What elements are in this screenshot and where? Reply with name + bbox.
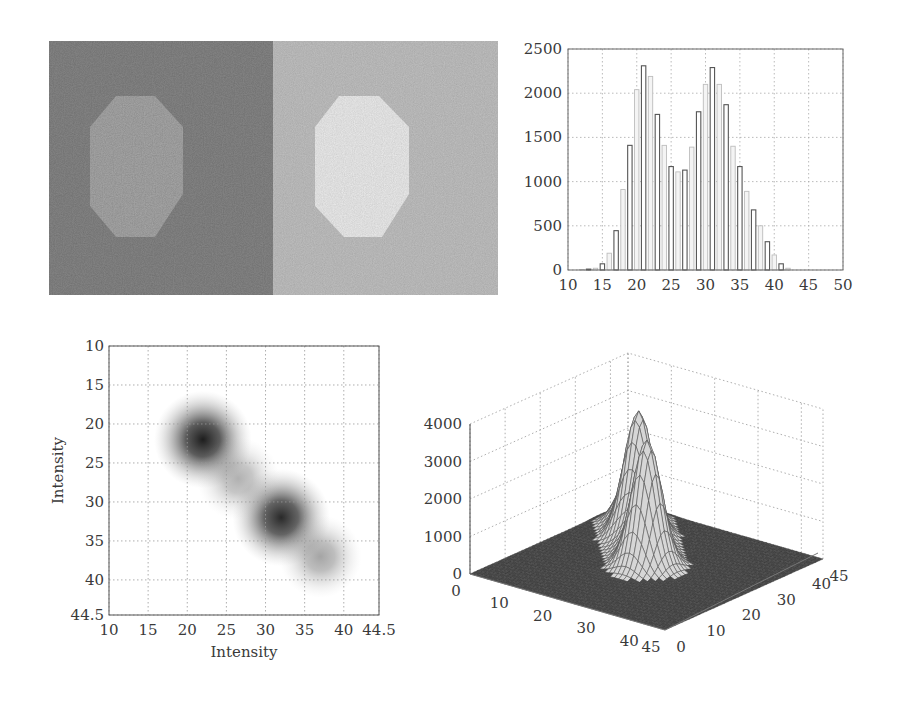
histogram-bar (655, 114, 659, 270)
histogram-bar (641, 66, 645, 270)
x-tick-label: 40 (334, 621, 353, 639)
y-tick-label: 20 (742, 606, 761, 624)
z-tick-label: 4000 (424, 415, 462, 433)
cluster (279, 515, 362, 598)
y-tick-label: 30 (777, 591, 796, 609)
surface-chart: 010002000300040000102030404501020304045 (420, 340, 880, 670)
x-tick-label: 20 (627, 276, 646, 294)
y-tick-label: 40 (85, 571, 104, 589)
histogram-bar (690, 147, 694, 270)
y-axis-label: Intensity (49, 436, 67, 504)
y-tick-label: 2500 (524, 40, 562, 58)
y-tick-label: 40 (812, 575, 831, 593)
z-tick-label: 3000 (424, 453, 462, 471)
y-tick-label: 25 (85, 454, 104, 472)
bright-octagon (315, 96, 409, 237)
x-tick-label: 50 (833, 276, 852, 294)
x-tick-label: 15 (593, 276, 612, 294)
x-tick-label: 20 (178, 621, 197, 639)
histogram-bars (580, 66, 791, 270)
histogram-bar (607, 253, 611, 270)
cluster (197, 437, 280, 520)
histogram-bar (628, 145, 632, 270)
y-tick-label: 1500 (524, 128, 562, 146)
histogram-chart: 10152025303540455005001000150020002500 (510, 40, 890, 300)
y-tick-label: 0 (552, 261, 562, 279)
joint-histogram-clusters (154, 391, 362, 598)
histogram-bar (717, 84, 721, 270)
histogram-panel: 10152025303540455005001000150020002500 (510, 40, 890, 300)
x-tick-label: 30 (576, 619, 595, 637)
histogram-bar (662, 145, 666, 270)
noisy-images-panel (49, 41, 498, 295)
y-tick-label: 30 (85, 493, 104, 511)
y-tick-label: 44.5 (71, 606, 104, 624)
bright-image (273, 41, 498, 295)
z-tick-label: 1000 (424, 528, 462, 546)
joint-x-ticks: 1015202530354044.5 (99, 621, 395, 639)
x-tick-label: 45 (641, 638, 660, 656)
x-tick-label: 35 (730, 276, 749, 294)
x-tick-label: 30 (696, 276, 715, 294)
surface-panel: 010002000300040000102030404501020304045 (420, 340, 880, 670)
histogram-bar (676, 172, 680, 270)
histogram-bar (669, 167, 673, 270)
x-tick-label: 0 (451, 582, 461, 600)
x-tick-label: 44.5 (362, 621, 395, 639)
y-tick-label: 45 (829, 567, 848, 585)
z-tick-label: 0 (452, 565, 462, 583)
y-tick-label: 15 (85, 376, 104, 394)
x-tick-label: 10 (490, 594, 509, 612)
x-axis-label: Intensity (210, 643, 278, 661)
histogram-bar (731, 146, 735, 270)
x-tick-label: 30 (256, 621, 275, 639)
histogram-bar (779, 264, 783, 270)
histogram-bar (765, 242, 769, 270)
y-tick-label: 500 (533, 217, 562, 235)
x-tick-label: 15 (139, 621, 158, 639)
x-tick-label: 25 (217, 621, 236, 639)
histogram-bar (710, 68, 714, 270)
y-tick-label: 1000 (524, 173, 562, 191)
histogram-bar (703, 84, 707, 270)
x-tick-label: 20 (533, 607, 552, 625)
histogram-bar (758, 226, 762, 270)
histogram-bar (751, 210, 755, 270)
y-tick-label: 35 (85, 532, 104, 550)
histogram-x-ticks: 101520253035404550 (558, 276, 852, 294)
dark-image (49, 41, 273, 295)
histogram-bar (738, 167, 742, 270)
y-tick-label: 20 (85, 415, 104, 433)
surface-mesh (470, 411, 823, 630)
joint-histogram-panel: 1015202530354044.51015202530354044.5Inte… (40, 335, 400, 675)
histogram-bar (600, 264, 604, 270)
histogram-bar (635, 90, 639, 270)
histogram-bar (745, 191, 749, 270)
x-tick-label: 40 (765, 276, 784, 294)
y-tick-label: 2000 (524, 84, 562, 102)
z-ticks: 01000200030004000 (424, 415, 462, 583)
histogram-bar (724, 105, 728, 270)
joint-y-ticks: 1015202530354044.5 (71, 337, 104, 624)
x-tick-label: 45 (799, 276, 818, 294)
histogram-bar (696, 112, 700, 270)
y-tick-label: 10 (707, 622, 726, 640)
noisy-images (49, 41, 498, 295)
histogram-bar (772, 255, 776, 270)
histogram-bar (683, 170, 687, 270)
histogram-y-ticks: 05001000150020002500 (524, 40, 562, 279)
histogram-bar (648, 76, 652, 270)
z-tick-label: 2000 (424, 490, 462, 508)
x-tick-label: 40 (620, 632, 639, 650)
x-tick-label: 35 (295, 621, 314, 639)
y-tick-label: 0 (676, 638, 686, 656)
y-tick-label: 10 (85, 337, 104, 355)
joint-histogram-chart: 1015202530354044.51015202530354044.5Inte… (40, 335, 400, 675)
x-tick-label: 25 (662, 276, 681, 294)
histogram-bar (614, 231, 618, 270)
histogram-bar (621, 190, 625, 270)
